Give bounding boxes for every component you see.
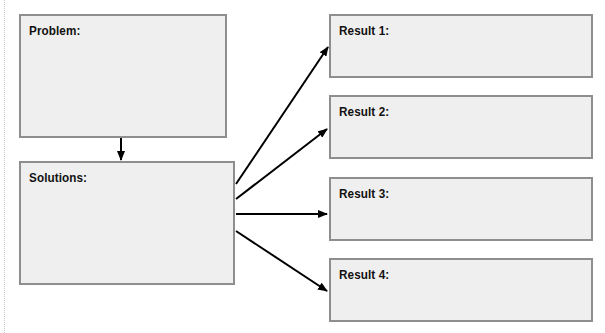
arrow-solutions-to-result-4 <box>236 231 327 291</box>
connector-arrows <box>0 0 605 333</box>
